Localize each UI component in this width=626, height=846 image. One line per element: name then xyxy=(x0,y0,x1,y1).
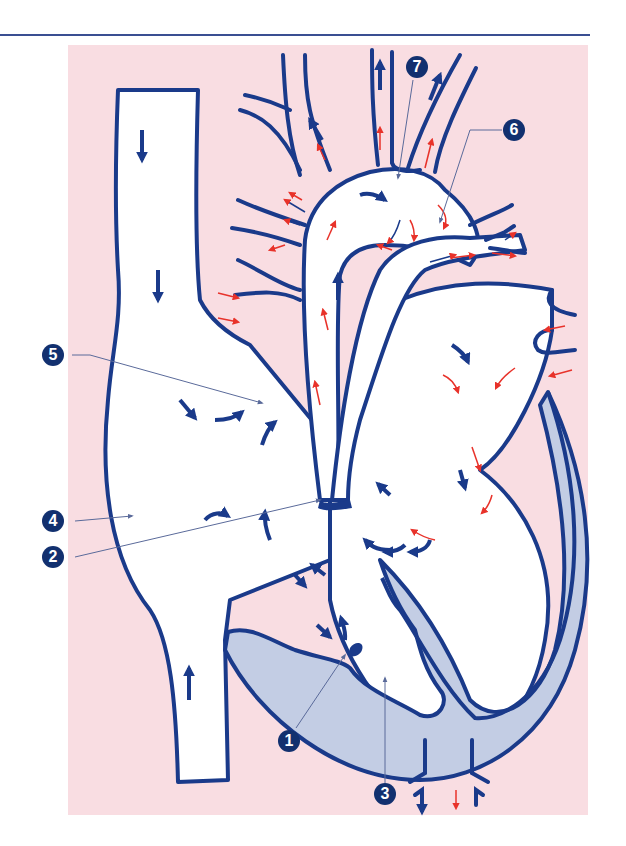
label-badge-7: 7 xyxy=(406,56,428,78)
label-badge-5: 5 xyxy=(42,344,64,366)
label-badge-4: 4 xyxy=(42,510,64,532)
label-badge-3: 3 xyxy=(374,783,396,805)
label-badge-6: 6 xyxy=(503,119,525,141)
heart-circulation-diagram xyxy=(0,0,626,846)
label-badge-2: 2 xyxy=(42,546,64,568)
label-badge-1: 1 xyxy=(278,730,300,752)
